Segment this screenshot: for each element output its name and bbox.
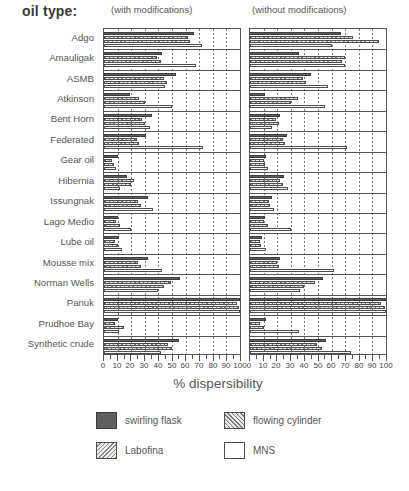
group-separator [250,336,386,337]
bar-swirling [104,318,118,321]
bar-swirling [250,73,311,76]
bar-labofina [104,183,131,186]
bar-flowing [104,56,157,59]
bar-flowing [104,118,142,121]
axis-tick-minor [365,355,366,359]
axis-tick-minor [256,355,257,359]
group-separator [104,315,240,316]
bar-flowing [250,240,260,243]
category-label: Bent Horn [0,113,94,124]
bar-flowing [250,118,276,121]
legend-label: Labofina [125,445,163,456]
bar-mns [104,208,153,211]
bar-labofina [104,306,239,309]
x-tick-label: 90 [368,361,377,370]
x-tick-label: 10 [259,361,268,370]
bar-labofina [104,204,141,207]
legend-label: swirling flask [125,415,182,426]
bar-swirling [250,175,284,178]
category-label: Lube oil [0,236,94,247]
category-label: Issungnak [0,195,94,206]
x-tick-label: 60 [181,361,190,370]
bar-mns [250,248,266,251]
axis-tick-minor [233,355,234,359]
group-separator [250,213,386,214]
bar-swirling [104,73,176,76]
group-separator [250,295,386,296]
bar-mns [250,167,268,170]
category-label: ASMB [0,73,94,84]
group-separator [104,131,240,132]
category-label: Synthetic crude [0,338,94,349]
group-separator [104,172,240,173]
bar-labofina [104,60,161,63]
bar-mns [250,310,386,313]
bar-mns [250,85,328,88]
bar-flowing [250,322,260,325]
legend-label: flowing cylinder [253,415,321,426]
bar-mns [104,64,196,67]
bar-swirling [104,93,130,96]
bar-flowing [250,261,277,264]
bar-flowing [250,302,381,305]
bar-labofina [250,81,306,84]
bar-swirling [250,298,386,301]
group-separator [104,90,240,91]
x-axis-title: % dispersibility [103,376,333,391]
x-tick-label: 0 [247,361,251,370]
bar-flowing [250,138,283,141]
x-tick-label: 100 [233,361,246,370]
axis-tick-minor [324,355,325,359]
bar-flowing [250,200,269,203]
x-tick-label: 90 [222,361,231,370]
group-separator [250,152,386,153]
group-separator [104,274,240,275]
bar-mns [250,269,334,272]
axis-tick-minor [165,355,166,359]
axis-tick-minor [206,355,207,359]
category-label: Federated [0,134,94,145]
bar-flowing [104,281,171,284]
category-label-column: AdgoAmauligakASMBAtkinsonBent HornFedera… [0,28,99,355]
legend-label: MNS [253,445,275,456]
bar-mns [104,126,150,129]
bar-flowing [104,240,115,243]
bar-flowing [250,159,264,162]
legend-swatch-flowing [224,412,245,429]
bar-swirling [104,236,119,239]
group-separator [250,70,386,71]
x-tick-label: 30 [140,361,149,370]
bar-labofina [104,40,190,43]
bar-swirling [250,134,287,137]
axis-tick-minor [151,355,152,359]
bar-flowing [104,261,138,264]
group-separator [250,193,386,194]
legend-item-swirling: swirling flask [96,412,182,429]
axis-tick-minor [110,355,111,359]
group-separator [250,274,386,275]
bar-mns [104,269,162,272]
group-separator [104,70,240,71]
category-label: Prudhoe Bay [0,318,94,329]
category-label: Lago Medio [0,216,94,227]
group-separator [104,295,240,296]
group-separator [250,254,386,255]
group-separator [104,49,240,50]
bar-mns [104,248,122,251]
group-separator [104,193,240,194]
category-label: Norman Wells [0,277,94,288]
category-label: Hibernia [0,175,94,186]
bar-mns [250,330,299,333]
bar-swirling [104,134,146,137]
x-tick-label: 70 [341,361,350,370]
bar-labofina [250,183,283,186]
bar-swirling [104,52,162,55]
bar-labofina [250,347,322,350]
axis-tick-minor [124,355,125,359]
bar-mns [250,208,274,211]
bar-mns [104,85,165,88]
bar-swirling [250,236,262,239]
bar-flowing [104,97,139,100]
bar-flowing [250,97,298,100]
bar-swirling [250,196,272,199]
